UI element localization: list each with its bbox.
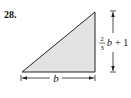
arrow-right-icon [89,76,94,80]
arrow-up-icon [111,12,115,17]
height-rest: + 1 [115,37,128,48]
arrow-left-icon [22,76,27,80]
fraction-numerator: 2 [100,35,104,43]
arrow-down-icon [111,66,115,71]
base-label: b [53,72,59,84]
right-triangle-figure: b 2 3 b + 1 [0,0,131,98]
base-dimension: b [21,72,95,84]
height-variable: b [107,37,112,48]
height-dimension: 2 3 b + 1 [99,11,128,72]
fraction-denominator: 3 [100,44,104,52]
triangle-shape [22,12,95,72]
